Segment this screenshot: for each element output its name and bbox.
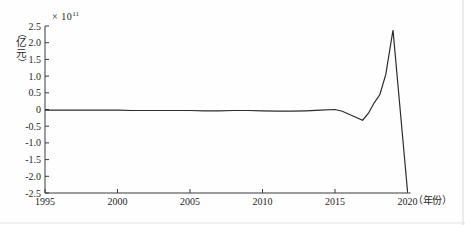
x-axis-label: （年份）: [413, 196, 451, 206]
scan-edge-right: [462, 0, 464, 225]
y-tick-label: 1.5: [29, 54, 42, 65]
line-chart-figure: × 1011 （ 亿 元 ） 2.52.01.51.00.50-0.5-1.0-…: [0, 0, 465, 225]
x-tick-label: 2010: [253, 196, 273, 207]
y-tick-label: -1.5: [25, 154, 41, 165]
x-tick-label: 2005: [180, 196, 200, 207]
y-tick-label: -0.5: [25, 121, 41, 132]
chart-canvas: 2.52.01.51.00.50-0.5-1.0-1.5-2.0-2.51995…: [0, 0, 465, 225]
y-tick-label: 2.0: [29, 37, 42, 48]
axes-frame: [45, 26, 411, 193]
data-line: [45, 30, 408, 191]
x-tick-label: 1995: [35, 196, 55, 207]
y-tick-label: -2.0: [25, 171, 41, 182]
x-tick-label: 2015: [325, 196, 345, 207]
scan-edge-bottom: [0, 222, 465, 224]
x-tick-label: 2000: [108, 196, 128, 207]
y-tick-label: 2.5: [29, 21, 42, 32]
y-tick-label: 1.0: [29, 71, 42, 82]
y-tick-label: 0: [36, 104, 41, 115]
y-tick-label: -1.0: [25, 137, 41, 148]
y-tick-label: 0.5: [29, 87, 42, 98]
